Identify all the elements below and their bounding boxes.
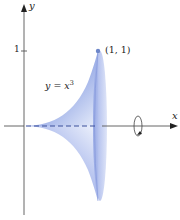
x-axis-arrow-icon [170, 123, 178, 129]
y-tick-label-1: 1 [14, 45, 20, 54]
solid-lower-half [24, 126, 98, 201]
point-label: (1, 1) [105, 45, 131, 55]
y-axis-arrow-icon [21, 4, 27, 12]
curve-equation-label: y = x3 [45, 80, 74, 91]
x-axis-label: x [172, 111, 178, 121]
y-axis-label: y [29, 1, 35, 11]
curve-equation-exponent: 3 [70, 79, 74, 87]
curve-equation-base: y = x [45, 80, 70, 91]
figure-canvas [0, 0, 180, 220]
solid-of-revolution-figure: y x 1 (1, 1) y = x3 [0, 0, 180, 220]
point-1-1 [96, 49, 100, 53]
